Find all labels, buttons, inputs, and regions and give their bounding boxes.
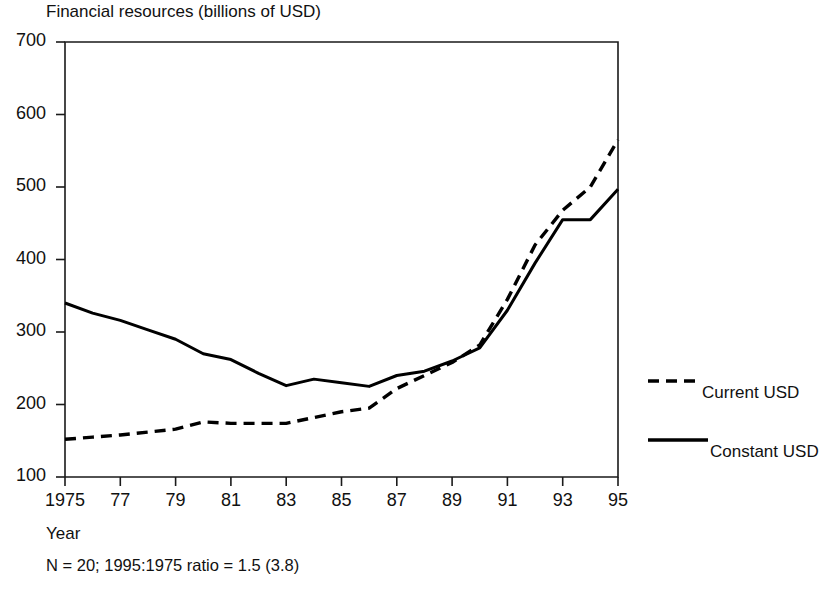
chart-footnote: N = 20; 1995:1975 ratio = 1.5 (3.8) bbox=[46, 556, 299, 575]
y-axis-tick-label: 700 bbox=[0, 30, 46, 51]
x-axis-tick-label: 95 bbox=[583, 490, 653, 511]
y-axis-tick-label: 500 bbox=[0, 175, 46, 196]
y-axis-tick-label: 100 bbox=[0, 465, 46, 486]
x-axis-title: Year bbox=[46, 524, 80, 544]
y-axis-tick-label: 600 bbox=[0, 103, 46, 124]
y-axis-tick-label: 200 bbox=[0, 393, 46, 414]
legend-label-current-usd: Current USD bbox=[702, 383, 799, 403]
legend-label-constant-usd: Constant USD bbox=[710, 442, 819, 462]
y-axis-tick-label: 300 bbox=[0, 320, 46, 341]
series-line-constant-usd bbox=[65, 189, 618, 386]
series-line-current-usd bbox=[65, 140, 618, 439]
y-axis-tick-label: 400 bbox=[0, 248, 46, 269]
